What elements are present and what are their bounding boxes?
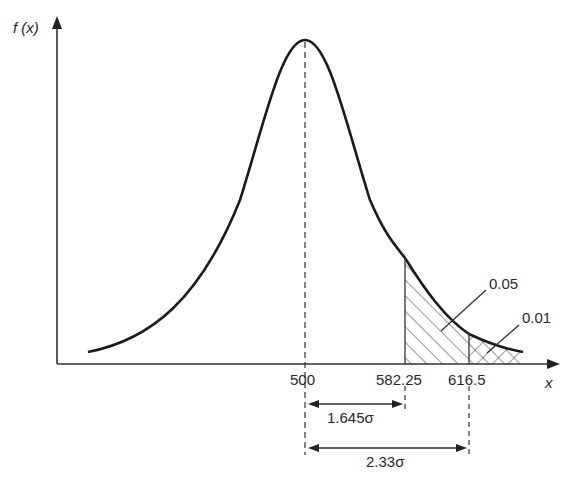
dimension-233-sigma: [308, 444, 467, 452]
tick-label-58225: 582.25: [376, 371, 422, 388]
tick-label-500: 500: [290, 371, 315, 388]
x-axis-arrow-icon: [547, 359, 560, 369]
y-axis-label: f (x): [13, 19, 39, 36]
region-label-005: 0.05: [489, 275, 518, 292]
dimension-label-233-sigma: 2.33σ: [366, 453, 405, 470]
y-axis-arrow-icon: [52, 16, 62, 29]
dimension-1645-sigma: [308, 400, 403, 408]
normal-distribution-diagram: f (x) x 500 582.25 616.5 0.05 0.01 1.645…: [0, 0, 578, 492]
leader-005: [441, 290, 486, 331]
arrow-left-icon: [308, 444, 319, 452]
dimension-label-1645-sigma: 1.645σ: [327, 409, 375, 426]
arrow-right-icon: [456, 444, 467, 452]
y-axis: [52, 16, 62, 364]
region-label-001: 0.01: [522, 309, 551, 326]
x-axis-label: x: [544, 374, 553, 391]
arrow-right-icon: [392, 400, 403, 408]
arrow-left-icon: [308, 400, 319, 408]
tick-label-6165: 616.5: [448, 371, 486, 388]
